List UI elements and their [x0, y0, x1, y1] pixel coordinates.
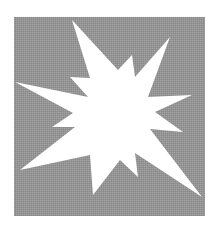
starburst-icon	[0, 0, 220, 232]
